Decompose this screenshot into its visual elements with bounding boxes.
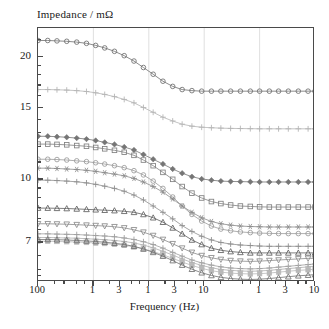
x-tick-mark-minor [275, 281, 276, 284]
data-point-star [140, 179, 146, 184]
y-tick-mark-minor [37, 269, 41, 270]
x-tick-mark-minor [109, 281, 110, 284]
data-point-diamond [189, 174, 194, 179]
data-point-plus [102, 92, 108, 98]
data-point-plus [285, 126, 291, 132]
y-tick-mark-minor [37, 65, 41, 66]
data-point-plus [160, 209, 166, 215]
data-point-plus [257, 243, 263, 249]
data-point-plus [189, 123, 195, 129]
data-point-diamond [84, 136, 89, 141]
y-tick-mark-major [37, 56, 43, 57]
x-tick-mark-major [314, 281, 315, 286]
series-series-3 [38, 134, 314, 185]
data-point-plus [84, 89, 90, 95]
data-point-plus [54, 178, 60, 184]
data-point-star [45, 166, 51, 171]
x-tick-mark-minor [164, 281, 165, 284]
y-tick-label: 20 [5, 49, 31, 61]
data-point-diamond [209, 178, 214, 183]
y-tick-mark-minor [37, 74, 41, 75]
data-point-diamond [64, 135, 69, 140]
data-point-diamond [150, 157, 155, 162]
y-tick-mark-major [37, 241, 43, 242]
y-tick-mark-major [37, 178, 43, 179]
data-point-diamond [267, 179, 272, 184]
x-tick-mark-minor [187, 281, 188, 284]
data-point-plus [266, 126, 272, 132]
data-point-plus [285, 243, 291, 249]
x-tick-mark-major [119, 281, 120, 286]
data-point-square-filled [267, 271, 272, 276]
data-point-plus [189, 229, 195, 235]
data-point-diamond [296, 179, 301, 184]
series-line [38, 90, 314, 129]
data-point-star [305, 224, 311, 229]
series-series-6 [38, 166, 314, 230]
y-tick-mark-minor [37, 207, 41, 208]
data-point-star [74, 167, 80, 172]
x-tick-mark-major [259, 281, 260, 286]
data-point-square-filled [228, 271, 233, 276]
data-point-plus [74, 88, 80, 94]
data-point-plus [121, 188, 127, 194]
data-point-star [150, 184, 156, 189]
data-point-star [295, 224, 301, 229]
data-point-plus [131, 192, 137, 198]
series-line [38, 234, 314, 269]
series-line [38, 144, 314, 207]
data-point-plus [112, 185, 118, 191]
data-point-diamond [179, 171, 184, 176]
data-point-plus [312, 126, 314, 132]
data-point-circle-open [313, 89, 314, 94]
data-point-diamond [102, 140, 107, 145]
series-series-1 [38, 38, 314, 93]
data-point-diamond [199, 176, 204, 181]
data-point-square-filled [313, 267, 314, 272]
data-point-star [111, 171, 117, 176]
data-point-diamond [305, 179, 310, 184]
data-point-diamond [248, 179, 253, 184]
data-point-diamond [228, 179, 233, 184]
data-point-plus [170, 118, 176, 124]
data-point-plus [131, 100, 137, 106]
data-point-plus [54, 87, 60, 93]
y-tick-label: 10 [5, 171, 31, 183]
data-point-triangle-up [312, 272, 314, 277]
data-point-star [312, 224, 314, 229]
y-tick-mark-minor [37, 197, 41, 198]
data-point-square-filled [248, 272, 253, 277]
data-point-plus [257, 126, 263, 132]
data-point-diamond [286, 179, 291, 184]
data-point-star [228, 223, 234, 228]
data-point-diamond [131, 147, 136, 152]
data-point-star [218, 221, 224, 226]
x-tick-mark-minor [305, 281, 306, 284]
data-point-star [208, 219, 214, 224]
data-point-diamond [257, 179, 262, 184]
data-point-plus [199, 124, 205, 130]
data-point-circle-open [313, 231, 314, 236]
data-point-plus [247, 126, 253, 132]
data-point-plus [237, 126, 243, 132]
data-point-plus [305, 243, 311, 249]
plot-area [37, 27, 314, 281]
data-point-star [102, 170, 108, 175]
data-point-square-filled [257, 271, 262, 276]
y-tick-mark-minor [37, 218, 41, 219]
data-point-star [285, 224, 291, 229]
data-point-plus [276, 126, 282, 132]
data-point-diamond [238, 179, 243, 184]
series-series-10 [38, 231, 314, 272]
x-tick-mark-minor [84, 281, 85, 284]
data-point-plus [295, 243, 301, 249]
x-tick-mark-major [37, 281, 38, 286]
y-tick-mark-minor [37, 95, 41, 96]
series-series-12 [38, 239, 314, 276]
x-tick-mark-minor [139, 281, 140, 284]
data-point-plus [121, 97, 127, 103]
data-point-plus [160, 114, 166, 120]
y-tick-mark-major [37, 107, 43, 108]
data-point-plus [84, 180, 90, 186]
data-point-diamond [38, 134, 41, 139]
